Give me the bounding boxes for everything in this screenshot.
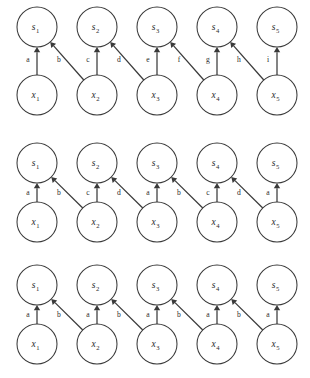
panel-3-edge-x5-s5-arrowhead <box>274 305 280 310</box>
panel-2-edge-x4-s4-arrowhead <box>214 183 220 188</box>
panel-1-node-s1[interactable]: s1 <box>17 7 57 47</box>
panel-2-node-s4[interactable]: s4 <box>197 143 237 183</box>
panel-1-node-x2[interactable]: x2 <box>77 75 117 115</box>
panel-1-node-s3[interactable]: s3 <box>137 7 177 47</box>
panel-3-edge-label-x3-s3: a <box>146 310 150 319</box>
figure-root: s1s2s3s4s5x1x2x3x4x5abcdefghis1s2s3s4s5x… <box>0 0 310 378</box>
panel-2-node-x4[interactable]: x4 <box>197 202 237 242</box>
panel-1-node-x4[interactable]: x4 <box>197 75 237 115</box>
panel-2-edge-x1-s1-arrowhead <box>34 183 40 188</box>
panel-1-edge-x2-s1 <box>50 42 84 80</box>
panel-2-edge-label-x5-s5: a <box>266 188 270 197</box>
panel-1-edge-label-x2-s1: b <box>57 55 61 64</box>
panel-1-edge-x3-s3-arrowhead <box>154 47 160 52</box>
panel-1-edge-label-x5-s4: h <box>237 55 241 64</box>
panel-1-edge-label-x4-s4: g <box>206 55 210 64</box>
panel-2-node-s5[interactable]: s5 <box>257 143 297 183</box>
panel-3-node-x1[interactable]: x1 <box>17 324 57 364</box>
panel-3-edge-x4-s4 <box>214 305 220 324</box>
panel-2-edge-x3-s3-arrowhead <box>154 183 160 188</box>
panel-1-edge-x2-s2 <box>94 47 100 75</box>
panel-3-edge-label-x4-s3: b <box>177 310 181 319</box>
panel-1-edge-label-x3-s3: e <box>146 55 150 64</box>
panel-2-edge-x4-s3 <box>171 177 202 208</box>
panel-1-edge-x4-s3 <box>170 42 204 80</box>
panel-3-edge-x3-s3-arrowhead <box>154 305 160 310</box>
panel-2-edge-x5-s5 <box>274 183 280 202</box>
panel-3-node-x4[interactable]: x4 <box>197 324 237 364</box>
panel-1-edge-x5-s5-arrowhead <box>274 47 280 52</box>
panel-3-edge-x4-s4-arrowhead <box>214 305 220 310</box>
panel-1-node-x5[interactable]: x5 <box>257 75 297 115</box>
panel-1-node-x3[interactable]: x3 <box>137 75 177 115</box>
panel-3-edge-x1-s1 <box>34 305 40 324</box>
panel-2: s1s2s3s4s5x1x2x3x4x5abcdabcda <box>0 135 310 250</box>
panel-1-edge-x1-s1-arrowhead <box>34 47 40 52</box>
panel-3-node-x5[interactable]: x5 <box>257 324 297 364</box>
panel-3-edge-x4-s3 <box>171 299 202 330</box>
panel-3-node-s5[interactable]: s5 <box>257 265 297 305</box>
panel-2-edge-label-x5-s4: d <box>237 188 241 197</box>
panel-2-edge-x1-s1 <box>34 183 40 202</box>
panel-3-edge-x3-s2 <box>111 299 142 330</box>
panel-2-edge-label-x3-s2: d <box>117 188 121 197</box>
panel-1-edge-x4-s4-arrowhead <box>214 47 220 52</box>
panel-2-node-s1[interactable]: s1 <box>17 143 57 183</box>
panel-1-node-s2[interactable]: s2 <box>77 7 117 47</box>
panel-1-edges <box>34 42 280 80</box>
panel-3-edge-label-x3-s2: b <box>117 310 121 319</box>
panel-1-edge-label-x3-s2: d <box>117 55 121 64</box>
panel-3-edge-x1-s1-arrowhead <box>34 305 40 310</box>
panel-3-node-s4[interactable]: s4 <box>197 265 237 305</box>
panel-2-edge-label-x4-s4: c <box>206 188 210 197</box>
panel-3-edge-label-x4-s4: a <box>206 310 210 319</box>
panel-3-node-s3[interactable]: s3 <box>137 265 177 305</box>
panel-2-edge-label-x2-s1: b <box>57 188 61 197</box>
panel-3-node-s2[interactable]: s2 <box>77 265 117 305</box>
panel-2-node-x2[interactable]: x2 <box>77 202 117 242</box>
panel-3-edge-x5-s4 <box>231 299 262 330</box>
panel-1-edge-x1-s1 <box>34 47 40 75</box>
panel-3-node-x2[interactable]: x2 <box>77 324 117 364</box>
panel-2-edge-label-x2-s2: c <box>86 188 90 197</box>
panel-2-node-x1[interactable]: x1 <box>17 202 57 242</box>
panel-2-edge-x2-s2-arrowhead <box>94 183 100 188</box>
panel-1: s1s2s3s4s5x1x2x3x4x5abcdefghi <box>0 0 310 123</box>
panel-3-node-x3[interactable]: x3 <box>137 324 177 364</box>
panel-3-edge-label-x2-s1: b <box>57 310 61 319</box>
panel-3-edge-label-x5-s5: a <box>266 310 270 319</box>
panel-1-edge-x3-s3 <box>154 47 160 75</box>
panel-2-node-x5[interactable]: x5 <box>257 202 297 242</box>
panel-3-node-s1[interactable]: s1 <box>17 265 57 305</box>
panel-1-node-x1[interactable]: x1 <box>17 75 57 115</box>
panel-1-edge-x5-s5 <box>274 47 280 75</box>
panel-1-edge-label-x4-s3: f <box>178 55 181 64</box>
panel-3-edge-label-x5-s4: b <box>237 310 241 319</box>
panel-2-edge-x5-s4 <box>231 177 262 208</box>
panel-1-edge-x5-s4 <box>230 42 264 80</box>
panel-3-edge-x5-s5 <box>274 305 280 324</box>
panel-1-edge-x3-s2 <box>110 42 144 80</box>
panel-3-edge-x3-s3 <box>154 305 160 324</box>
panel-1-node-s4[interactable]: s4 <box>197 7 237 47</box>
panel-3-edge-label-x1-s1: a <box>26 310 30 319</box>
panel-2-edge-x3-s3 <box>154 183 160 202</box>
panel-1-edge-x4-s4 <box>214 47 220 75</box>
panel-2-node-x3[interactable]: x3 <box>137 202 177 242</box>
panel-2-edge-x4-s4 <box>214 183 220 202</box>
panel-2-edge-label-x3-s3: a <box>146 188 150 197</box>
panel-1-node-s5[interactable]: s5 <box>257 7 297 47</box>
panel-2-node-s2[interactable]: s2 <box>77 143 117 183</box>
panel-2-edge-label-x4-s3: b <box>177 188 181 197</box>
panel-3: s1s2s3s4s5x1x2x3x4x5ababababa <box>0 257 310 372</box>
panel-1-edge-label-x2-s2: c <box>86 55 90 64</box>
panel-2-edge-x5-s5-arrowhead <box>274 183 280 188</box>
panel-3-edge-x2-s1 <box>51 299 82 330</box>
panel-2-edge-label-x1-s1: a <box>26 188 30 197</box>
panel-1-edge-label-x5-s5: i <box>267 55 269 64</box>
panel-2-edge-x3-s2 <box>111 177 142 208</box>
panel-3-edge-label-x2-s2: a <box>86 310 90 319</box>
panel-3-edge-x2-s2-arrowhead <box>94 305 100 310</box>
panel-2-node-s3[interactable]: s3 <box>137 143 177 183</box>
panel-1-edge-label-x1-s1: a <box>26 55 30 64</box>
